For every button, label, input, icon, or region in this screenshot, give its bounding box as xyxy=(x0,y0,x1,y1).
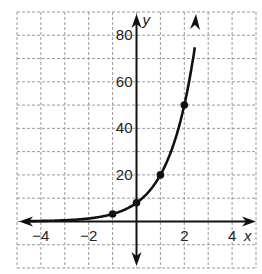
data-point xyxy=(109,210,117,218)
x-tick-label: −2 xyxy=(80,227,97,244)
y-tick-label: 60 xyxy=(116,73,133,90)
x-axis-label: x xyxy=(243,227,252,244)
curve-arrow-up-icon xyxy=(190,14,200,30)
chart: −4−22420406080 x y xyxy=(0,0,262,274)
y-tick-label: 20 xyxy=(116,166,133,183)
axes xyxy=(19,14,256,266)
x-tick-label: 2 xyxy=(180,227,188,244)
x-tick-label: 4 xyxy=(228,227,236,244)
y-tick-label: 80 xyxy=(116,26,133,43)
exponential-curve xyxy=(27,47,195,221)
data-point xyxy=(157,171,165,179)
y-tick-label: 40 xyxy=(116,119,133,136)
data-point xyxy=(181,101,189,109)
x-tick-label: −4 xyxy=(32,227,49,244)
data-point xyxy=(133,199,141,207)
y-axis-label: y xyxy=(142,11,152,28)
